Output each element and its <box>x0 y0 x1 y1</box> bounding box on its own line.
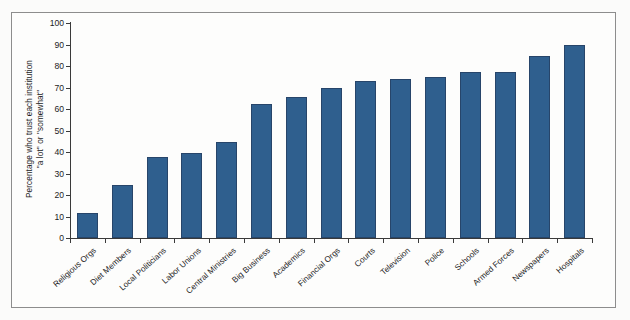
x-tick-mark <box>244 238 245 243</box>
y-tick-mark <box>66 217 70 218</box>
y-tick-label: 80 <box>54 61 64 71</box>
y-tick-label: 0 <box>59 233 64 243</box>
bar <box>321 88 342 239</box>
x-tick-mark <box>105 238 106 243</box>
bar <box>112 185 133 238</box>
x-tick-mark <box>592 238 593 243</box>
x-tick-mark <box>314 238 315 243</box>
figure-canvas: Percentage who trust each institution "a… <box>0 0 630 320</box>
bar <box>77 213 98 238</box>
x-tick-mark <box>279 238 280 243</box>
y-tick-mark <box>66 195 70 196</box>
bar <box>216 142 237 238</box>
x-tick-mark <box>209 238 210 243</box>
x-tick-mark <box>383 238 384 243</box>
y-tick-label: 10 <box>54 212 64 222</box>
plot-area: 0102030405060708090100 <box>70 23 592 238</box>
bar <box>286 97 307 238</box>
y-axis-title-line-1: Percentage who trust each institution <box>25 60 34 198</box>
y-tick-label: 100 <box>50 18 64 28</box>
bar <box>251 104 272 238</box>
x-tick-mark <box>453 238 454 243</box>
x-tick-mark <box>348 238 349 243</box>
bar <box>355 81 376 238</box>
y-axis-title: Percentage who trust each institution "a… <box>22 18 48 240</box>
y-tick-label: 40 <box>54 147 64 157</box>
y-tick-mark <box>66 23 70 24</box>
y-tick-label: 70 <box>54 83 64 93</box>
y-axis-title-line-2: "a lot" or "somewhat" <box>35 90 44 168</box>
y-tick-label: 60 <box>54 104 64 114</box>
bar <box>460 72 481 238</box>
y-tick-label: 30 <box>54 169 64 179</box>
x-tick-mark <box>557 238 558 243</box>
bar <box>495 72 516 238</box>
x-axis-line <box>70 238 593 239</box>
y-tick-label: 50 <box>54 126 64 136</box>
x-tick-mark <box>488 238 489 243</box>
bar <box>390 79 411 238</box>
x-tick-mark <box>418 238 419 243</box>
y-tick-mark <box>66 174 70 175</box>
y-tick-mark <box>66 131 70 132</box>
y-tick-mark <box>66 109 70 110</box>
x-tick-mark <box>522 238 523 243</box>
bar <box>147 157 168 238</box>
y-tick-mark <box>66 88 70 89</box>
y-tick-label: 90 <box>54 40 64 50</box>
bar <box>564 45 585 239</box>
x-tick-mark <box>70 238 71 243</box>
bar <box>425 77 446 238</box>
y-tick-mark <box>66 45 70 46</box>
bar <box>181 153 202 238</box>
x-tick-mark <box>174 238 175 243</box>
y-tick-mark <box>66 152 70 153</box>
y-tick-label: 20 <box>54 190 64 200</box>
bar <box>529 56 550 238</box>
y-tick-mark <box>66 66 70 67</box>
x-tick-mark <box>140 238 141 243</box>
